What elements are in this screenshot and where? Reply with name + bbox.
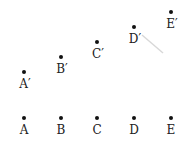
dot-icon <box>22 70 26 74</box>
point-E-prime: E′ <box>166 10 178 31</box>
point-label: D′ <box>129 32 142 46</box>
point-label: E <box>167 123 176 137</box>
point-C-prime: C′ <box>92 40 104 61</box>
point-label: B′ <box>56 62 68 76</box>
point-label: E′ <box>166 17 178 31</box>
dot-icon <box>95 116 99 120</box>
dot-icon <box>169 116 173 120</box>
point-B-prime: B′ <box>56 55 68 76</box>
point-label: A′ <box>18 77 31 91</box>
point-label: C′ <box>92 47 104 61</box>
point-B: B <box>57 116 66 137</box>
point-D: D <box>129 116 139 137</box>
point-label: B <box>57 123 66 137</box>
point-C: C <box>92 116 101 137</box>
point-label: A <box>19 123 29 137</box>
dot-icon <box>169 10 173 14</box>
point-label: D <box>129 123 139 137</box>
point-E: E <box>167 116 176 137</box>
faint-stroke <box>142 35 163 53</box>
dot-icon <box>95 40 99 44</box>
point-D-prime: D′ <box>129 25 142 46</box>
dot-icon <box>132 116 136 120</box>
point-diagram: A B C D E A′ B′ C′ D′ E′ <box>0 0 186 146</box>
point-A: A <box>19 116 29 137</box>
point-label: C <box>92 123 101 137</box>
dot-icon <box>132 25 136 29</box>
dot-icon <box>59 55 63 59</box>
dot-icon <box>22 116 26 120</box>
point-A-prime: A′ <box>18 70 31 91</box>
dot-icon <box>59 116 63 120</box>
